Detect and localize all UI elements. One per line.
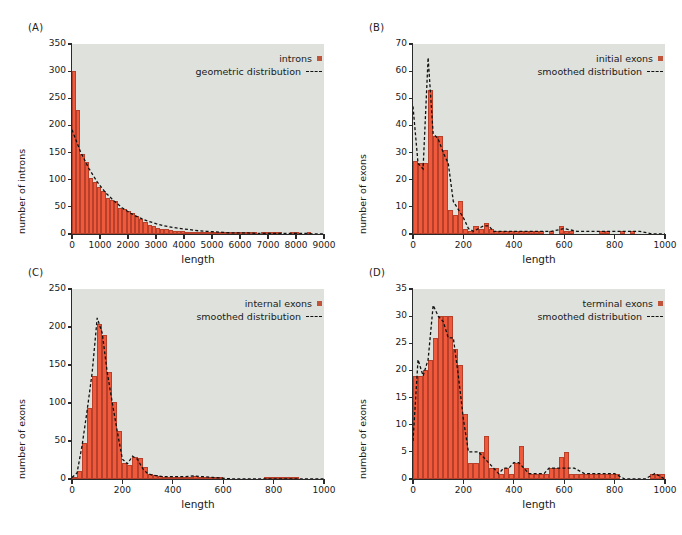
legend-dashed-line-icon (647, 71, 663, 72)
x-axis-line (413, 479, 666, 480)
legend-swatch-icon (317, 56, 322, 61)
x-tick (99, 235, 100, 239)
y-tick (68, 364, 72, 365)
legend-item: internal exons (164, 297, 322, 310)
x-axis-label: length (72, 498, 324, 510)
x-tick (664, 480, 665, 484)
legend-dashed-line-icon (306, 316, 322, 317)
x-tick-label: 1000 (643, 240, 682, 250)
y-axis-line (71, 289, 72, 480)
x-tick (155, 235, 156, 239)
y-tick (68, 326, 72, 327)
x-tick (513, 235, 514, 239)
legend-item: smoothed distribution (505, 65, 663, 78)
y-tick (68, 179, 72, 180)
x-tick (614, 235, 615, 239)
x-tick-label: 800 (252, 485, 296, 495)
y-tick-label: 30 (371, 310, 407, 320)
legend-swatch-icon (317, 301, 322, 306)
x-tick (239, 235, 240, 239)
y-tick (409, 152, 413, 153)
y-tick-label: 150 (30, 147, 66, 157)
legend-label: introns (279, 53, 312, 64)
panel-letter: (D) (369, 267, 385, 278)
legend-label: terminal exons (583, 298, 654, 309)
y-tick-label: 10 (371, 201, 407, 211)
x-tick (211, 235, 212, 239)
panel-letter: (B) (369, 22, 384, 33)
x-tick (172, 480, 173, 484)
y-tick (409, 288, 413, 289)
y-tick (409, 43, 413, 44)
y-tick-label: 250 (30, 92, 66, 102)
x-tick-label: 9000 (302, 240, 346, 250)
x-tick-label: 200 (441, 485, 485, 495)
panel-introns: (A)0501001502002503003500100020003000400… (0, 0, 341, 268)
x-tick-label: 600 (201, 485, 245, 495)
x-tick-label: 800 (593, 485, 637, 495)
panel-letter: (C) (28, 267, 43, 278)
y-tick-label: 100 (30, 397, 66, 407)
x-axis-label: length (413, 253, 665, 265)
x-tick (664, 235, 665, 239)
x-tick-label: 400 (492, 240, 536, 250)
y-tick-label: 50 (30, 435, 66, 445)
y-tick (409, 179, 413, 180)
legend: intronsgeometric distribution (164, 52, 322, 78)
legend-label: smoothed distribution (196, 311, 301, 322)
y-tick-label: 0 (30, 473, 66, 483)
x-axis-line (72, 234, 325, 235)
x-tick (412, 235, 413, 239)
y-tick-label: 0 (30, 228, 66, 238)
legend-item: geometric distribution (164, 65, 322, 78)
x-tick (463, 480, 464, 484)
y-tick (409, 343, 413, 344)
legend-dashed-line-icon (306, 71, 322, 72)
x-tick-label: 0 (391, 485, 435, 495)
panel-letter: (A) (28, 22, 43, 33)
x-tick-label: 0 (391, 240, 435, 250)
x-tick (183, 235, 184, 239)
x-axis-label: length (72, 253, 324, 265)
y-tick (68, 440, 72, 441)
x-tick (323, 235, 324, 239)
legend-label: smoothed distribution (537, 66, 642, 77)
x-tick-label: 200 (100, 485, 144, 495)
y-tick-label: 20 (371, 174, 407, 184)
legend-item: smoothed distribution (164, 310, 322, 323)
panel-internal-exons: (C)05010015020025002004006008001000lengt… (0, 267, 341, 535)
y-tick (68, 125, 72, 126)
legend-dashed-line-icon (647, 316, 663, 317)
y-tick (409, 71, 413, 72)
y-tick (68, 402, 72, 403)
x-tick-label: 1000 (302, 485, 346, 495)
legend-label: initial exons (596, 53, 653, 64)
y-tick (409, 397, 413, 398)
x-tick-label: 200 (441, 240, 485, 250)
y-tick-label: 300 (30, 65, 66, 75)
legend-item: smoothed distribution (505, 310, 663, 323)
x-tick-label: 800 (593, 240, 637, 250)
y-tick (68, 71, 72, 72)
y-tick (409, 424, 413, 425)
legend: internal exonssmoothed distribution (164, 297, 322, 323)
x-tick (564, 480, 565, 484)
legend-label: internal exons (245, 298, 312, 309)
y-tick-label: 25 (371, 337, 407, 347)
y-tick-label: 0 (371, 473, 407, 483)
x-tick (295, 235, 296, 239)
y-tick-label: 15 (371, 392, 407, 402)
x-tick (267, 235, 268, 239)
figure-root: (A)0501001502002503003500100020003000400… (0, 0, 682, 535)
legend-swatch-icon (658, 301, 663, 306)
y-tick-label: 70 (371, 38, 407, 48)
legend-label: smoothed distribution (537, 311, 642, 322)
y-tick (409, 206, 413, 207)
y-tick-label: 40 (371, 119, 407, 129)
legend-item: initial exons (505, 52, 663, 65)
x-tick (513, 480, 514, 484)
y-tick-label: 350 (30, 38, 66, 48)
x-tick-label: 600 (542, 240, 586, 250)
y-tick (409, 125, 413, 126)
x-tick-label: 400 (492, 485, 536, 495)
